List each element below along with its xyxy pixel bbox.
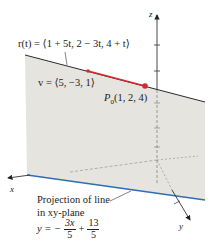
point-p0-label: P0(1, 2, 4): [104, 93, 147, 106]
projection-caption-1: Projection of line: [37, 195, 110, 206]
line-equation-text: r(t) = ⟨1 + 5t, 2 − 3t, 4 + t⟩: [18, 38, 130, 49]
projection-equation: y = − 3x 5 + 13 5: [37, 218, 99, 240]
z-axis-label: z: [149, 10, 153, 19]
direction-vector-label: v = ⟨5, −3, 1⟩: [38, 78, 95, 89]
equation-lhs: y = −: [37, 224, 61, 235]
fraction-1-numerator: 3x: [64, 218, 75, 230]
vector-head: [86, 69, 90, 73]
x-axis: [8, 175, 30, 178]
line-label-leader: [65, 52, 67, 65]
projection-label-leader: [110, 191, 131, 201]
fraction-2-numerator: 13: [87, 218, 99, 230]
point-coords: (1, 2, 4): [114, 92, 147, 103]
point-p0: [142, 83, 148, 89]
fraction-2: 13 5: [87, 218, 99, 240]
line-equation-label: r(t) = ⟨1 + 5t, 2 − 3t, 4 + t⟩: [18, 39, 130, 50]
projection-caption-2: in xy-plane: [37, 208, 85, 219]
fraction-2-denominator: 5: [91, 230, 96, 241]
fraction-1: 3x 5: [64, 218, 75, 240]
fraction-1-denominator: 5: [67, 230, 72, 241]
x-axis-label: x: [10, 185, 14, 194]
y-axis-label: y: [179, 222, 183, 231]
plus-sign: +: [79, 224, 85, 235]
